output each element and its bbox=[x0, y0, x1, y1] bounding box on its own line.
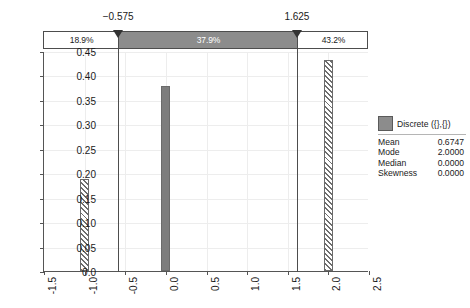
legend-divider bbox=[378, 134, 466, 135]
y-tick-mark bbox=[40, 125, 44, 126]
y-tick-label: 0.25 bbox=[77, 144, 96, 155]
statistic-value: 0.0000 bbox=[424, 168, 470, 178]
x-tick-mark bbox=[288, 271, 289, 275]
series-swatch-icon bbox=[378, 116, 393, 131]
statistic-row: Mode2.0000 bbox=[378, 147, 470, 157]
y-tick-mark bbox=[40, 101, 44, 102]
upper-handle-line[interactable] bbox=[297, 31, 298, 272]
y-tick-mark bbox=[40, 76, 44, 77]
x-tick-label: -0.5 bbox=[128, 277, 139, 294]
statistic-row: Skewness0.0000 bbox=[378, 168, 470, 178]
y-tick-label: 0.05 bbox=[77, 242, 96, 253]
lower-handle-icon[interactable] bbox=[113, 30, 123, 38]
y-tick-label: 0.15 bbox=[77, 193, 96, 204]
x-tick-mark bbox=[369, 271, 370, 275]
y-tick-label: 0.40 bbox=[77, 71, 96, 82]
y-tick-label: 0.45 bbox=[77, 47, 96, 58]
x-tick-mark bbox=[328, 271, 329, 275]
x-tick-label: 2.0 bbox=[331, 277, 342, 291]
y-tick-mark bbox=[40, 223, 44, 224]
x-tick-mark bbox=[44, 271, 45, 275]
y-tick-mark bbox=[40, 150, 44, 151]
gridline-vertical bbox=[247, 52, 248, 271]
x-tick-mark bbox=[166, 271, 167, 275]
statistic-name: Median bbox=[378, 158, 424, 168]
statistic-row: Mean0.6747 bbox=[378, 137, 470, 147]
statistic-value: 0.6747 bbox=[424, 137, 470, 147]
x-tick-label: 0.0 bbox=[169, 277, 180, 291]
x-tick-label: 1.5 bbox=[291, 277, 302, 291]
distribution-chart: 18.9% 37.9% 43.2% −0.575 1.625 Discrete … bbox=[0, 0, 470, 308]
statistic-value: 2.0000 bbox=[424, 147, 470, 157]
statistic-value: 0.0000 bbox=[424, 158, 470, 168]
x-tick-mark bbox=[207, 271, 208, 275]
upper-handle-label: 1.625 bbox=[284, 11, 309, 22]
legend-title-row: Discrete ({},{}) bbox=[378, 116, 470, 131]
x-tick-label: 0.5 bbox=[210, 277, 221, 291]
x-tick-label: 2.5 bbox=[372, 277, 383, 291]
bar bbox=[324, 60, 333, 271]
band-center-percent: 37.9% bbox=[119, 32, 298, 48]
statistic-name: Mean bbox=[378, 137, 424, 147]
y-tick-label: 0.20 bbox=[77, 169, 96, 180]
y-tick-mark bbox=[40, 52, 44, 53]
plot-area bbox=[43, 52, 368, 272]
statistics-list: Mean0.6747Mode2.0000Median0.0000Skewness… bbox=[378, 137, 470, 179]
gridline-vertical bbox=[125, 52, 126, 271]
lower-handle-line[interactable] bbox=[118, 31, 119, 272]
y-tick-mark bbox=[40, 199, 44, 200]
statistic-name: Mode bbox=[378, 147, 424, 157]
y-tick-label: 0.0 bbox=[82, 267, 96, 278]
statistic-row: Median0.0000 bbox=[378, 158, 470, 168]
y-tick-label: 0.10 bbox=[77, 218, 96, 229]
y-tick-mark bbox=[40, 174, 44, 175]
legend-series-label: Discrete ({},{}) bbox=[397, 119, 451, 129]
band-right-percent: 43.2% bbox=[298, 32, 369, 48]
x-tick-mark bbox=[125, 271, 126, 275]
y-tick-mark bbox=[40, 248, 44, 249]
x-tick-label: -1.5 bbox=[47, 277, 58, 294]
bar bbox=[161, 86, 170, 271]
gridline-vertical bbox=[207, 52, 208, 271]
lower-handle-label: −0.575 bbox=[103, 11, 134, 22]
y-tick-label: 0.35 bbox=[77, 95, 96, 106]
x-tick-label: 1.0 bbox=[250, 277, 261, 291]
gridline-vertical bbox=[288, 52, 289, 271]
x-tick-mark bbox=[247, 271, 248, 275]
statistic-name: Skewness bbox=[378, 168, 424, 178]
y-tick-label: 0.30 bbox=[77, 120, 96, 131]
x-tick-label: -1.0 bbox=[88, 277, 99, 294]
legend-panel: Discrete ({},{}) Mean0.6747Mode2.0000Med… bbox=[378, 116, 470, 179]
upper-handle-icon[interactable] bbox=[292, 30, 302, 38]
